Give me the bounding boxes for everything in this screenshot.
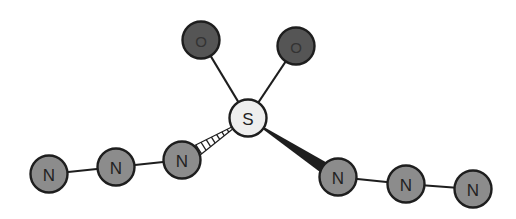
atom-n6: N: [455, 171, 492, 208]
atom-label: O: [290, 39, 302, 56]
atom-label: S: [242, 110, 253, 129]
atom-n2: N: [98, 149, 135, 186]
atom-label: N: [467, 181, 479, 200]
atom-label: N: [332, 169, 344, 188]
atom-label: O: [195, 33, 207, 50]
atom-o2: O: [278, 28, 315, 65]
atom-s: S: [230, 100, 267, 137]
atom-label: N: [176, 152, 188, 171]
atom-label: N: [400, 176, 412, 195]
molecule-canvas: OOSNNNNNN: [0, 0, 516, 219]
atom-n5: N: [388, 166, 425, 203]
atom-label: N: [110, 159, 122, 178]
molecule-diagram: OOSNNNNNN: [0, 0, 516, 219]
atoms-layer: OOSNNNNNN: [31, 22, 492, 208]
atom-n3: N: [164, 142, 201, 179]
atom-n4: N: [320, 159, 357, 196]
atom-n1: N: [31, 156, 68, 193]
atom-o1: O: [183, 22, 220, 59]
atom-label: N: [43, 166, 55, 185]
